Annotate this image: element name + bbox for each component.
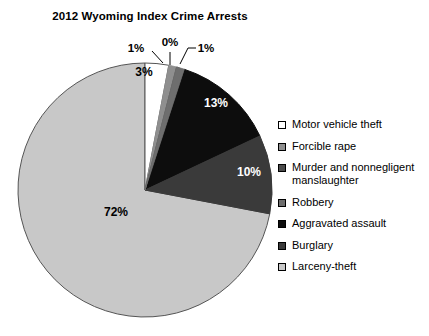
legend-item-label: Burglary: [292, 239, 333, 252]
legend-item-label: Murder and nonnegligent manslaughter: [292, 161, 414, 187]
slice-label-robbery: 10%: [237, 165, 261, 179]
legend-item-label: Forcible rape: [292, 140, 356, 153]
chart-legend: Motor vehicle theft Forcible rape Murder…: [278, 118, 428, 282]
legend-swatch-icon: [278, 121, 286, 129]
legend-swatch-icon: [278, 263, 286, 271]
leader-line-robbery-small: [180, 48, 196, 64]
legend-swatch-icon: [278, 242, 286, 250]
leader-line-forcible-rape: [152, 51, 163, 63]
legend-swatch-icon: [278, 199, 286, 207]
legend-item-aggravated-assault[interactable]: Aggravated assault: [278, 217, 428, 230]
legend-item-murder-manslaughter[interactable]: Murder and nonnegligent manslaughter: [278, 161, 428, 187]
legend-swatch-icon: [278, 220, 286, 228]
slice-label-motor-vehicle-theft: 3%: [135, 65, 153, 79]
legend-swatch-icon: [278, 164, 286, 172]
slice-callout-robbery-small: 1%: [198, 42, 215, 54]
slice-label-larceny-theft: 72%: [104, 205, 128, 219]
slice-callout-murder: 0%: [162, 36, 179, 48]
legend-item-label: Robbery: [292, 196, 334, 209]
pie-chart-figure: 2012 Wyoming Index Crime Arrests 1% 0% 1…: [0, 0, 429, 336]
slice-label-aggravated-assault: 13%: [204, 96, 228, 110]
legend-item-forcible-rape[interactable]: Forcible rape: [278, 140, 428, 153]
slice-callout-forcible-rape: 1%: [128, 42, 145, 54]
legend-item-larceny-theft[interactable]: Larceny-theft: [278, 260, 428, 273]
legend-item-label: Motor vehicle theft: [292, 118, 382, 131]
legend-item-label: Aggravated assault: [292, 217, 386, 230]
legend-item-motor-vehicle-theft[interactable]: Motor vehicle theft: [278, 118, 428, 131]
legend-item-label: Larceny-theft: [292, 260, 356, 273]
legend-item-burglary[interactable]: Burglary: [278, 239, 428, 252]
legend-item-robbery[interactable]: Robbery: [278, 196, 428, 209]
legend-swatch-icon: [278, 143, 286, 151]
